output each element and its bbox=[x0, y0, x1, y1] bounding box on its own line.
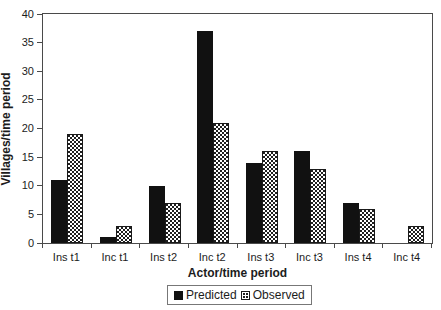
bar-observed-Ins-t2 bbox=[165, 203, 181, 243]
x-tick-mark-0 bbox=[42, 244, 43, 248]
bar-predicted-Inc-t3 bbox=[294, 151, 310, 243]
y-tick-label-35: 35 bbox=[0, 37, 34, 48]
bar-predicted-Ins-t1 bbox=[51, 180, 67, 243]
x-tick-mark-6 bbox=[334, 244, 335, 248]
y-tick-mark-40 bbox=[37, 14, 42, 15]
legend-entry-predicted: Predicted bbox=[174, 288, 237, 302]
y-tick-label-40: 40 bbox=[0, 9, 34, 20]
y-tick-mark-35 bbox=[37, 42, 42, 43]
y-tick-mark-10 bbox=[37, 185, 42, 186]
x-category-label-Ins-t2: Ins t2 bbox=[140, 251, 188, 263]
y-tick-mark-30 bbox=[37, 71, 42, 72]
x-tick-mark-5 bbox=[285, 244, 286, 248]
bar-predicted-Inc-t2 bbox=[197, 31, 213, 243]
y-tick-mark-25 bbox=[37, 99, 42, 100]
x-category-label-Inc-t3: Inc t3 bbox=[285, 251, 333, 263]
observed-swatch-icon bbox=[241, 291, 250, 300]
x-category-label-Inc-t1: Inc t1 bbox=[91, 251, 139, 263]
x-tick-mark-7 bbox=[382, 244, 383, 248]
x-tick-mark-1 bbox=[91, 244, 92, 248]
legend-label-predicted: Predicted bbox=[186, 288, 237, 302]
bar-chart-figure: Villages/time period Actor/time period P… bbox=[0, 0, 441, 310]
bar-observed-Ins-t3 bbox=[262, 151, 278, 243]
legend-box: Predicted Observed bbox=[167, 285, 312, 305]
x-tick-mark-8 bbox=[431, 244, 432, 248]
bar-predicted-Ins-t2 bbox=[149, 186, 165, 243]
y-tick-mark-20 bbox=[37, 128, 42, 129]
legend-entry-observed: Observed bbox=[241, 288, 305, 302]
bar-observed-Ins-t1 bbox=[67, 134, 83, 243]
x-category-label-Ins-t1: Ins t1 bbox=[42, 251, 90, 263]
x-category-label-Ins-t4: Ins t4 bbox=[334, 251, 382, 263]
y-tick-label-25: 25 bbox=[0, 94, 34, 105]
bar-predicted-Inc-t1 bbox=[100, 237, 116, 243]
x-axis-title: Actor/time period bbox=[42, 266, 433, 280]
y-tick-label-5: 5 bbox=[0, 209, 34, 220]
bar-observed-Inc-t4 bbox=[408, 226, 424, 243]
bar-observed-Ins-t4 bbox=[359, 209, 375, 243]
x-category-label-Inc-t2: Inc t2 bbox=[188, 251, 236, 263]
x-category-label-Ins-t3: Ins t3 bbox=[237, 251, 285, 263]
bar-predicted-Ins-t3 bbox=[246, 163, 262, 243]
bar-observed-Inc-t2 bbox=[213, 123, 229, 243]
bar-predicted-Ins-t4 bbox=[343, 203, 359, 243]
y-tick-label-30: 30 bbox=[0, 66, 34, 77]
x-tick-mark-3 bbox=[188, 244, 189, 248]
y-tick-label-0: 0 bbox=[0, 238, 34, 249]
y-tick-label-10: 10 bbox=[0, 180, 34, 191]
legend-label-observed: Observed bbox=[253, 288, 305, 302]
plot-area bbox=[42, 13, 433, 244]
predicted-swatch-icon bbox=[174, 291, 183, 300]
x-tick-mark-4 bbox=[237, 244, 238, 248]
y-tick-label-15: 15 bbox=[0, 152, 34, 163]
y-tick-mark-5 bbox=[37, 214, 42, 215]
y-tick-mark-15 bbox=[37, 157, 42, 158]
bar-observed-Inc-t3 bbox=[310, 169, 326, 243]
y-tick-label-20: 20 bbox=[0, 123, 34, 134]
bar-observed-Inc-t1 bbox=[116, 226, 132, 243]
x-tick-mark-2 bbox=[139, 244, 140, 248]
x-category-label-Inc-t4: Inc t4 bbox=[383, 251, 431, 263]
